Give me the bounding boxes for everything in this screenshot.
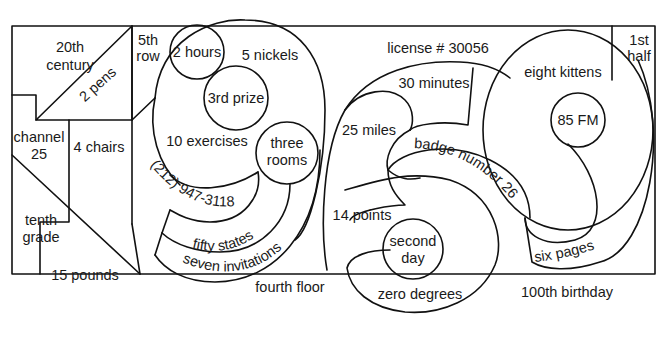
century-step <box>12 95 36 120</box>
label-four-chairs: 4 chairs <box>74 139 125 155</box>
label-eighty-five-fm: 85 FM <box>557 112 598 128</box>
label-badge-number: badge number 26 <box>414 135 521 201</box>
label-hundredth-birthday: 100th birthday <box>521 284 614 300</box>
label-fourth-floor: fourth floor <box>255 279 324 295</box>
label-zero-degrees: zero degrees <box>378 286 463 302</box>
label-fifth-row: 5throw <box>136 32 160 64</box>
label-six-pages: six pages <box>533 237 595 265</box>
phone-left-cap <box>162 210 170 233</box>
label-channel-25: channel25 <box>14 129 65 162</box>
label-second-day: secondday <box>390 233 437 266</box>
second-day-circle <box>383 219 443 279</box>
label-license: license # 30056 <box>387 40 489 56</box>
label-fifteen-pounds: 15 pounds <box>51 267 119 283</box>
row-slant <box>132 98 155 120</box>
fifty-left-cap <box>155 233 162 255</box>
label-five-nickels: 5 nickels <box>242 47 298 63</box>
pounds-edge <box>132 224 140 274</box>
label-twentieth-century: 20thcentury <box>46 39 94 73</box>
label-twenty-five-miles: 25 miles <box>342 122 396 138</box>
label-tenth-grade: tenthgrade <box>22 212 59 245</box>
label-third-prize: 3rd prize <box>208 90 264 106</box>
label-two-hours: 2 hours <box>173 44 221 60</box>
label-phone-number: (212) 947-3118 <box>148 157 235 210</box>
label-fifty-states: fifty states <box>191 227 256 254</box>
diagram-canvas: 20thcentury 2 pens 5throw channel25 4 ch… <box>0 0 666 337</box>
label-eight-kittens: eight kittens <box>524 64 601 80</box>
label-ten-exercises: 10 exercises <box>166 133 247 149</box>
number-puzzle-diagram: 20thcentury 2 pens 5throw channel25 4 ch… <box>0 0 666 337</box>
label-three-rooms: threerooms <box>267 135 307 168</box>
label-thirty-minutes: 30 minutes <box>399 75 470 91</box>
label-first-half: 1sthalf <box>627 32 651 64</box>
label-fourteen-points: 14 points <box>333 207 392 223</box>
